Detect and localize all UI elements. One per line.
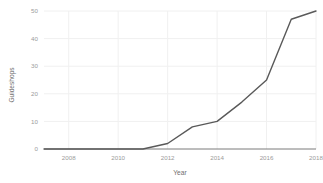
- x-tick-label: 2010: [111, 154, 125, 161]
- y-tick-label: 0: [35, 145, 39, 152]
- y-gridlines: [44, 11, 316, 121]
- y-tick-label: 20: [31, 90, 38, 97]
- chart-plot-area: 01020304050 200820102012201420162018 Gui…: [0, 0, 323, 183]
- y-tick-label: 30: [31, 62, 38, 69]
- data-series-line: [44, 11, 316, 149]
- y-axis-title: Guideshops: [8, 67, 16, 103]
- line-chart: 01020304050 200820102012201420162018 Gui…: [0, 0, 323, 183]
- x-tick-label: 2012: [161, 154, 175, 161]
- x-gridlines: [69, 11, 316, 149]
- x-tick-label: 2008: [62, 154, 76, 161]
- x-tick-label: 2014: [210, 154, 224, 161]
- y-tick-labels: 01020304050: [31, 7, 38, 152]
- y-tick-label: 40: [31, 35, 38, 42]
- x-tick-labels: 200820102012201420162018: [62, 154, 323, 161]
- x-tick-label: 2016: [260, 154, 274, 161]
- x-tick-label: 2018: [309, 154, 323, 161]
- y-tick-label: 10: [31, 118, 38, 125]
- x-axis-title: Year: [173, 169, 187, 176]
- y-tick-label: 50: [31, 7, 38, 14]
